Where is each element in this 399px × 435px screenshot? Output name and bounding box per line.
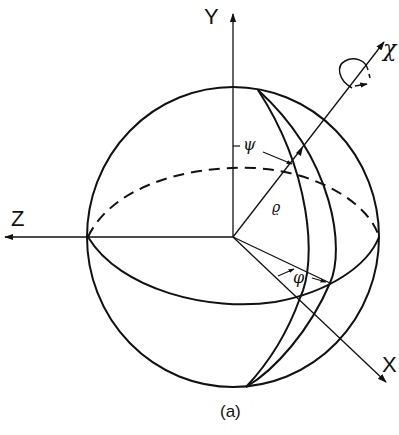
figure-caption: (a) — [220, 403, 241, 420]
rho-label: ϱ — [272, 200, 280, 214]
chi-axis-label: χ — [383, 38, 396, 60]
psi-arrow — [263, 152, 292, 164]
phi-angle-label: φ — [293, 270, 304, 286]
x-axis — [233, 237, 386, 382]
rotation-arrow — [355, 84, 367, 86]
phi-radius — [233, 237, 330, 283]
rotation-arc — [340, 59, 368, 88]
phi-arrow-left — [278, 269, 294, 276]
sphere-diagram — [0, 0, 399, 435]
x-axis-label: X — [382, 354, 397, 376]
psi-angle-label: ψ — [243, 137, 256, 153]
z-axis-label: Z — [11, 208, 24, 230]
meridian-outer — [246, 90, 336, 387]
y-axis-label: Y — [204, 6, 219, 28]
